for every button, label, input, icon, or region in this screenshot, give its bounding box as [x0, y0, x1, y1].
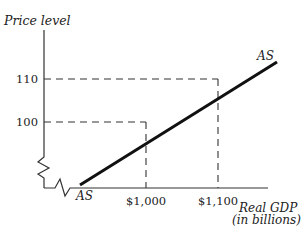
as-label-upper: AS	[256, 49, 274, 63]
y-axis	[38, 30, 49, 188]
y-tick-110: 110	[16, 72, 38, 86]
y-axis-label: Price level	[3, 13, 71, 28]
reference-lines	[44, 79, 218, 188]
as-chart: Price level 110 100 $1,000 $1,100 Real G…	[0, 0, 308, 235]
x-axis-sublabel: (in billions)	[232, 213, 301, 227]
as-curve	[80, 62, 277, 185]
as-label-lower: AS	[75, 189, 93, 203]
x-tick-1000: $1,000	[126, 194, 166, 208]
y-tick-100: 100	[16, 115, 38, 129]
x-tick-1100: $1,100	[198, 194, 238, 208]
